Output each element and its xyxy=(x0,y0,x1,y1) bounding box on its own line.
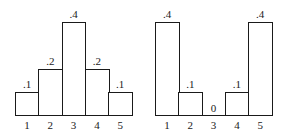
x-tick-label: 2 xyxy=(178,119,202,131)
value-label: .4 xyxy=(62,9,86,20)
x-tick-label: 4 xyxy=(225,119,249,131)
bar xyxy=(248,22,273,116)
x-tick-label: 1 xyxy=(15,119,39,131)
x-tick-label: 5 xyxy=(108,119,132,131)
value-label: .1 xyxy=(225,79,249,90)
bar xyxy=(108,92,133,116)
value-label: 0 xyxy=(202,103,226,114)
x-tick-label: 2 xyxy=(38,119,62,131)
bar xyxy=(62,22,87,116)
bar xyxy=(178,92,203,116)
value-label: .2 xyxy=(85,56,109,67)
x-tick-label: 1 xyxy=(155,119,179,131)
x-tick-label: 3 xyxy=(62,119,86,131)
bar xyxy=(38,69,63,116)
value-label: .1 xyxy=(108,79,132,90)
x-tick-label: 4 xyxy=(85,119,109,131)
value-label: .4 xyxy=(155,9,179,20)
value-label: .1 xyxy=(15,79,39,90)
bar xyxy=(15,92,40,116)
value-label: .2 xyxy=(38,56,62,67)
bar xyxy=(225,92,250,116)
x-tick-label: 5 xyxy=(248,119,272,131)
x-tick-label: 3 xyxy=(202,119,226,131)
bar xyxy=(155,22,180,116)
bar xyxy=(85,69,110,116)
value-label: .4 xyxy=(248,9,272,20)
value-label: .1 xyxy=(178,79,202,90)
